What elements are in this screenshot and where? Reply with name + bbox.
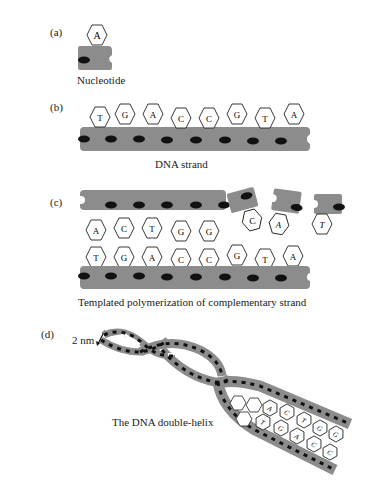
svg-text:C: C xyxy=(206,114,212,124)
svg-text:C: C xyxy=(121,224,127,234)
svg-text:A: A xyxy=(290,252,297,262)
svg-text:G: G xyxy=(122,110,129,120)
svg-text:G: G xyxy=(234,110,241,120)
svg-text:C: C xyxy=(178,114,184,124)
svg-text:C: C xyxy=(178,255,184,265)
free-nucleotide xyxy=(267,188,305,215)
svg-text:G: G xyxy=(121,253,128,263)
strand-bases: T G A C C G T A xyxy=(90,104,304,128)
phosphate-dot xyxy=(78,57,90,64)
svg-text:A: A xyxy=(291,110,298,120)
svg-text:T: T xyxy=(97,113,103,123)
free-nucleotide xyxy=(310,194,345,214)
svg-text:A: A xyxy=(93,30,101,41)
svg-text:T: T xyxy=(262,255,268,265)
dna-diagram: A T G A C C G T A xyxy=(0,0,369,486)
nucleotide: A xyxy=(78,25,112,70)
svg-text:T: T xyxy=(93,253,99,263)
base-hexagon: A xyxy=(87,25,107,45)
svg-text:G: G xyxy=(178,227,185,237)
svg-text:G: G xyxy=(206,227,213,237)
svg-text:A: A xyxy=(149,253,156,263)
double-helix: A C T G G T G A C C xyxy=(96,330,350,470)
dna-strand: T G A C C G T A xyxy=(78,104,315,151)
svg-text:A: A xyxy=(93,226,100,236)
svg-text:G: G xyxy=(234,251,241,261)
svg-text:A: A xyxy=(150,110,157,120)
svg-text:T: T xyxy=(262,114,268,124)
template-polymerization: A C T G G C A T T G A C C G T A xyxy=(77,187,345,289)
svg-text:C: C xyxy=(206,255,212,265)
svg-text:T: T xyxy=(149,224,155,234)
